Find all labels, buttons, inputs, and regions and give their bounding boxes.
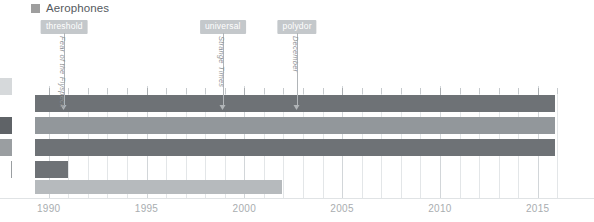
x-axis-label: 1995 [135, 203, 158, 214]
tick-mark [460, 88, 461, 94]
tick-mark [420, 88, 421, 94]
x-axis-label: 1990 [37, 203, 60, 214]
annotation-album-label: Strange Times [217, 36, 226, 87]
tick-mark [225, 88, 226, 94]
x-axis-label: 2000 [233, 203, 256, 214]
tick-mark [186, 88, 187, 94]
row-edge-swatch [0, 117, 12, 134]
row-edge-marker [11, 161, 12, 178]
bar-row-2[interactable] [35, 117, 555, 134]
tick-mark [68, 88, 69, 94]
bar-row-3[interactable] [35, 139, 555, 156]
x-axis-label: 2005 [330, 203, 353, 214]
tick-mark [499, 88, 500, 94]
tick-mark [362, 88, 363, 94]
bar-row-5[interactable] [35, 180, 282, 194]
plot-area: thresholdFear of the FlyspeckuniversalSt… [0, 0, 594, 222]
tick-mark [401, 88, 402, 94]
x-axis-line [0, 198, 594, 199]
tick-mark [381, 88, 382, 94]
tick-mark [205, 88, 206, 94]
tick-mark [127, 88, 128, 94]
row-edge-swatch [0, 78, 12, 95]
annotation-badge[interactable]: threshold [41, 20, 88, 34]
annotation-album-label: December [291, 36, 300, 72]
tick-mark [264, 88, 265, 94]
gridline [557, 88, 558, 198]
row-edge-swatch [0, 95, 12, 112]
tick-mark [107, 88, 108, 94]
tick-mark [518, 88, 519, 94]
tick-mark [323, 88, 324, 94]
x-axis-label: 2015 [526, 203, 549, 214]
annotation-badge[interactable]: polydor [277, 20, 316, 34]
chart-root: Aerophones thresholdFear of the Flyspeck… [0, 0, 594, 222]
tick-mark [479, 88, 480, 94]
tick-mark [557, 88, 558, 94]
bar-row-4[interactable] [35, 161, 68, 178]
annotation-arrow-down-icon [219, 105, 225, 110]
row-edge-swatch [0, 139, 12, 156]
tick-mark [166, 88, 167, 94]
annotation-badge[interactable]: universal [200, 20, 246, 34]
annotation-album-label: Fear of the Flyspeck [58, 36, 67, 108]
x-axis-label: 2010 [428, 203, 451, 214]
annotation-arrow-down-icon [294, 105, 300, 110]
tick-mark [283, 88, 284, 94]
tick-mark [88, 88, 89, 94]
tick-mark [303, 88, 304, 94]
